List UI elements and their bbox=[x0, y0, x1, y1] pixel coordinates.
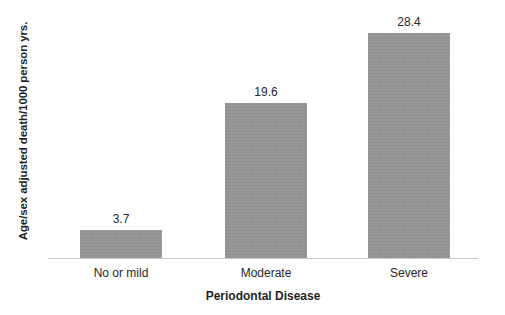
bar-moderate[interactable] bbox=[225, 103, 307, 259]
x-axis-label-moderate: Moderate bbox=[196, 266, 336, 280]
x-axis-title: Periodontal Disease bbox=[48, 289, 478, 303]
y-axis-title: Age/sex adjusted death/1000 person yrs. bbox=[0, 0, 46, 262]
bar-no-or-mild[interactable] bbox=[80, 230, 162, 259]
x-axis-label-no-or-mild: No or mild bbox=[51, 266, 191, 280]
bar-value-label-severe: 28.4 bbox=[368, 15, 450, 29]
x-axis-line bbox=[48, 258, 478, 259]
plot-area: 3.7 19.6 28.4 bbox=[48, 8, 478, 259]
x-axis-label-severe: Severe bbox=[339, 266, 479, 280]
bar-chart: Age/sex adjusted death/1000 person yrs. … bbox=[0, 0, 505, 315]
y-axis-title-text: Age/sex adjusted death/1000 person yrs. bbox=[17, 22, 29, 241]
bar-value-label-no-or-mild: 3.7 bbox=[80, 212, 162, 226]
bar-severe[interactable] bbox=[368, 33, 450, 259]
bar-value-label-moderate: 19.6 bbox=[225, 85, 307, 99]
